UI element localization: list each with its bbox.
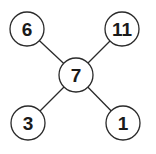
node-label: 1 <box>118 113 129 134</box>
node-center: 7 <box>59 58 93 92</box>
node-bottom-right: 1 <box>106 106 140 140</box>
node-label: 11 <box>112 19 133 40</box>
node-label: 6 <box>22 19 33 40</box>
node-bottom-left: 3 <box>11 106 45 140</box>
node-label: 3 <box>23 113 34 134</box>
star-diagram: 6 11 7 3 1 <box>0 0 156 154</box>
node-label: 7 <box>71 65 82 86</box>
node-top-right: 11 <box>105 12 139 46</box>
node-top-left: 6 <box>10 12 44 46</box>
diagram-canvas: 6 11 7 3 1 <box>0 0 156 154</box>
